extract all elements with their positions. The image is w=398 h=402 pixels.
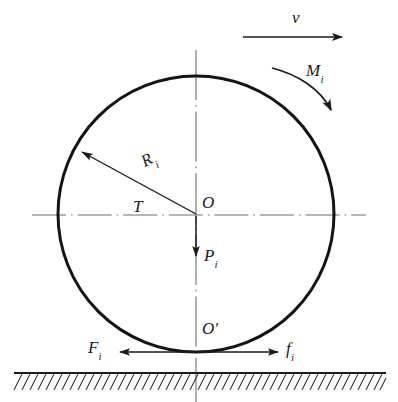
wheel-free-body-diagram: v Mi Ri T O Pi O' Fi fi bbox=[0, 0, 398, 402]
label-velocity: v bbox=[292, 9, 300, 26]
ground-hatching bbox=[14, 374, 386, 390]
label-moment: Mi bbox=[306, 62, 323, 83]
label-force-left: Fi bbox=[88, 339, 102, 360]
label-force-right: fi bbox=[286, 340, 294, 361]
label-weight: Pi bbox=[204, 247, 218, 268]
diagram-canvas bbox=[0, 0, 398, 402]
label-contact-point: O' bbox=[202, 320, 218, 337]
label-tangent-point: T bbox=[133, 198, 142, 215]
label-center: O bbox=[202, 194, 214, 211]
